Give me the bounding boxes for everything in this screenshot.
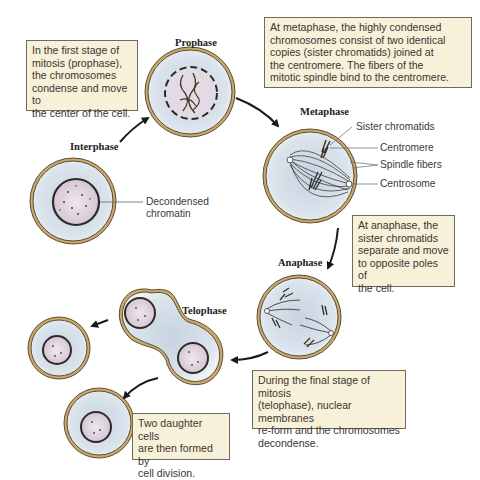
callout-anaphase: At anaphase, the sister chromatids separ… xyxy=(352,215,455,287)
telophase-title: Telophase xyxy=(182,305,227,316)
arrow-prophase-to-metaphase xyxy=(236,98,278,126)
arrow-telophase-to-daughter-left xyxy=(92,320,108,326)
prophase-cell xyxy=(145,47,235,137)
callout-prophase: In the first stage of mitosis (prophase)… xyxy=(26,40,138,111)
arrow-telophase-to-daughter-bottom xyxy=(124,378,158,398)
mitosis-diagram: Prophase Interphase Metaphase Anaphase T… xyxy=(0,0,480,480)
arrow-interphase-to-prophase xyxy=(120,118,148,142)
metaphase-cell xyxy=(263,127,378,223)
label-spindle-fibers: Spindle fibers xyxy=(380,159,442,171)
daughter-cell-left xyxy=(28,317,90,379)
daughter-cell-bottom xyxy=(64,388,134,458)
metaphase-title: Metaphase xyxy=(300,106,349,117)
anaphase-title: Anaphase xyxy=(278,257,322,268)
anaphase-cell xyxy=(257,275,341,359)
interphase-cell xyxy=(30,158,143,244)
label-centromere: Centromere xyxy=(380,142,434,154)
label-decondensed-chromatin: Decondensed chromatin xyxy=(146,196,209,220)
interphase-title: Interphase xyxy=(70,141,118,152)
callout-metaphase: At metaphase, the highly condensed chrom… xyxy=(264,17,472,88)
telophase-cell xyxy=(119,289,223,385)
arrow-metaphase-to-anaphase xyxy=(328,228,338,268)
label-sister-chromatids: Sister chromatids xyxy=(356,121,435,133)
label-centrosome: Centrosome xyxy=(380,178,436,190)
callout-daughter-cells: Two daughter cells are then formed by ce… xyxy=(132,413,230,460)
prophase-title: Prophase xyxy=(175,37,217,48)
callout-telophase: During the final stage of mitosis (telop… xyxy=(252,370,406,429)
arrow-anaphase-to-telophase xyxy=(232,352,268,360)
